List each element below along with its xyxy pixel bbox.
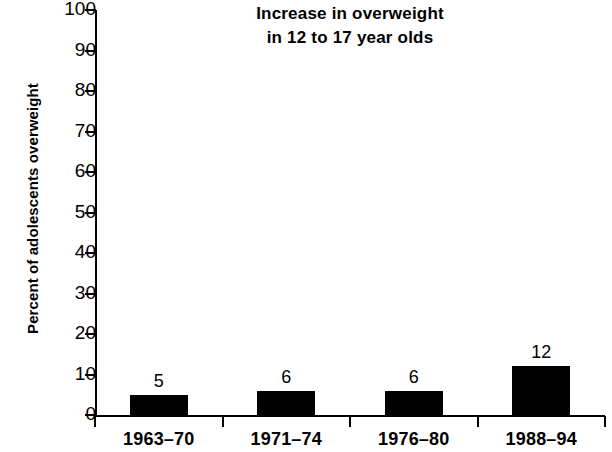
bar-value-label: 6 <box>374 367 454 387</box>
y-axis-tick-label: 100 <box>48 0 96 19</box>
y-axis-tick-label: 0 <box>48 404 96 424</box>
y-axis-tick-label-wrap: 70 <box>30 121 96 141</box>
y-axis-tick-label: 30 <box>48 283 96 303</box>
x-axis-category-label: 1988–94 <box>476 428 606 450</box>
bar <box>257 391 315 415</box>
x-axis-tick-mark <box>222 416 224 427</box>
bar <box>130 395 188 415</box>
x-axis-category-label: 1976–80 <box>349 428 479 450</box>
y-axis-tick-label-wrap: 30 <box>30 283 96 303</box>
y-axis-tick-label-wrap: 90 <box>30 40 96 60</box>
y-axis-tick-label: 40 <box>48 242 96 262</box>
y-axis-tick-label-wrap: 50 <box>30 202 96 222</box>
bar <box>385 391 443 415</box>
chart-title: Increase in overweight in 12 to 17 year … <box>150 2 550 50</box>
chart-title-line-1: Increase in overweight <box>256 4 444 23</box>
y-axis-tick-label: 80 <box>48 80 96 100</box>
x-axis-tick-mark <box>94 416 96 427</box>
y-axis-tick-label-wrap: 10 <box>30 364 96 384</box>
bar-value-label: 6 <box>246 367 326 387</box>
x-axis-category-label: 1963–70 <box>94 428 224 450</box>
y-axis-tick-label-wrap: 100 <box>30 0 96 19</box>
chart-title-line-2: in 12 to 17 year olds <box>150 26 550 50</box>
y-axis-tick-label-wrap: 80 <box>30 80 96 100</box>
y-axis-tick-label-wrap: 20 <box>30 323 96 343</box>
bar-value-label: 5 <box>119 371 199 391</box>
bar-value-label: 12 <box>501 342 581 362</box>
y-axis-tick-label: 90 <box>48 40 96 60</box>
y-axis-tick-label: 20 <box>48 323 96 343</box>
x-axis-tick-mark <box>477 416 479 427</box>
y-axis-tick-label-wrap: 0 <box>30 404 96 424</box>
x-axis-category-label: 1971–74 <box>221 428 351 450</box>
bar <box>512 366 570 415</box>
x-axis-tick-mark <box>349 416 351 427</box>
x-axis-tick-mark <box>604 416 606 427</box>
y-axis-tick-label: 60 <box>48 161 96 181</box>
bar-chart: Increase in overweight in 12 to 17 year … <box>0 0 612 452</box>
y-axis-tick-label-wrap: 40 <box>30 242 96 262</box>
y-axis-tick-label: 70 <box>48 121 96 141</box>
y-axis-tick-label: 10 <box>48 364 96 384</box>
y-axis-tick-label-wrap: 60 <box>30 161 96 181</box>
y-axis-tick-label: 50 <box>48 202 96 222</box>
